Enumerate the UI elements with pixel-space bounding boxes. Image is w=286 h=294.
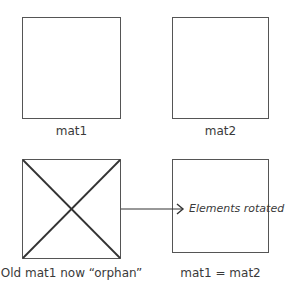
elements-rotated-annotation: Elements rotated: [189, 202, 284, 215]
cross-out-icon: [23, 160, 120, 258]
arrow-icon: [121, 204, 183, 214]
diagram-overlay: [0, 0, 286, 294]
